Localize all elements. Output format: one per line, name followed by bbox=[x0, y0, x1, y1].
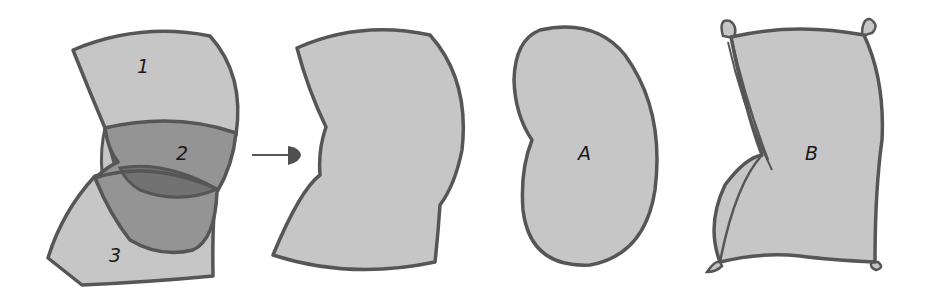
figure-overlapping-bands: 1 2 3 bbox=[48, 31, 238, 285]
band-1-label: 1 bbox=[137, 55, 149, 77]
pillow-body bbox=[714, 29, 882, 262]
band-1 bbox=[73, 31, 238, 135]
band-3-label: 3 bbox=[109, 244, 121, 266]
bean-label: A bbox=[576, 142, 591, 164]
diagram-canvas: 1 2 3 A B bbox=[0, 0, 929, 301]
figure-combined-shape bbox=[273, 30, 463, 270]
band-2-label: 2 bbox=[176, 142, 188, 164]
figure-b-pillow: B bbox=[707, 19, 882, 272]
arrow-icon bbox=[252, 146, 301, 165]
figure-a-bean: A bbox=[514, 27, 657, 265]
pillow-label: B bbox=[805, 142, 818, 164]
